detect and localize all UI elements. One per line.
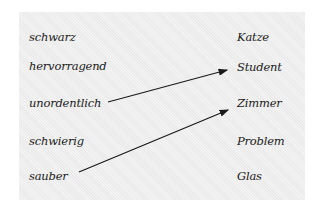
connection-arrows	[0, 0, 319, 216]
arrow-unordentlich-student	[108, 70, 227, 102]
arrow-sauber-zimmer	[79, 110, 228, 172]
